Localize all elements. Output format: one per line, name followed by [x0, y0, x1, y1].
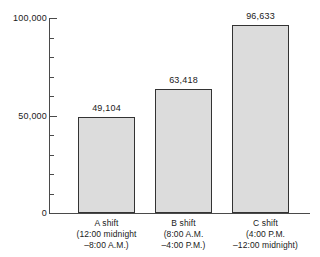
bar-b-shift[interactable]	[155, 89, 212, 213]
bar-value-b-shift: 63,418	[155, 75, 212, 85]
y-tick-80000	[49, 57, 54, 58]
category-label-c-shift: C shift (4:00 P.M. –12:00 midnight)	[213, 218, 318, 251]
y-tick-70000	[49, 77, 54, 78]
bar-value-c-shift: 96,633	[232, 11, 289, 21]
category-name-c-shift: C shift	[213, 218, 318, 229]
bar-c-shift[interactable]	[232, 25, 289, 213]
y-tick-20000	[49, 174, 54, 175]
y-tick-50000	[49, 116, 57, 117]
y-axis-label-bottom: 0	[42, 208, 47, 218]
y-tick-40000	[49, 135, 54, 136]
category-sub2-c-shift: –12:00 midnight)	[213, 240, 318, 251]
x-axis-line	[49, 213, 310, 214]
y-tick-100000	[49, 18, 57, 19]
y-tick-10000	[49, 194, 54, 195]
bar-a-shift[interactable]	[78, 117, 135, 213]
y-axis-label-middle: 50,000	[18, 111, 47, 121]
y-tick-90000	[49, 38, 54, 39]
y-tick-30000	[49, 155, 54, 156]
y-tick-60000	[49, 96, 54, 97]
bar-value-a-shift: 49,104	[78, 103, 135, 113]
y-axis-label-top: 100,000	[13, 13, 47, 23]
category-sub1-c-shift: (4:00 P.M.	[213, 229, 318, 240]
bar-chart: 100,000 50,000 0 49,104 63,418 96,633 A …	[0, 0, 320, 257]
